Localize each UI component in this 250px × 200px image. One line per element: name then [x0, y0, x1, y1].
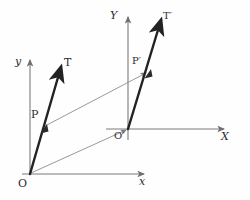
vector-o-prime-t-prime: [128, 20, 161, 129]
vector-translation-figure: O x y P T O′ X Y P′ T′: [0, 0, 250, 200]
label-axis-y-upper: Y: [110, 10, 117, 21]
label-origin-o-prime: O′: [114, 131, 124, 141]
connector-o-to-o-prime: [31, 130, 126, 173]
label-axis-x-lower: x: [139, 176, 145, 187]
label-point-t: T: [64, 57, 71, 68]
label-axis-y-lower: y: [15, 56, 21, 67]
label-point-p: P: [31, 109, 38, 120]
label-point-p-prime: P′: [132, 56, 141, 66]
figure-canvas: [0, 0, 250, 200]
label-origin-o: O: [18, 178, 27, 189]
label-axis-x-upper: X: [221, 131, 229, 142]
label-point-t-prime: T′: [163, 11, 172, 21]
